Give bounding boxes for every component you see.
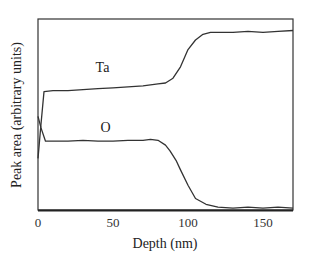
x-axis-title: Depth (nm) [133, 236, 198, 252]
o-series-line [38, 116, 293, 208]
depth-profile-chart: 050100150 Depth (nm) Peak area (arbitrar… [0, 0, 310, 258]
x-tick-label: 100 [178, 215, 198, 230]
x-tick-label: 150 [253, 215, 273, 230]
o-series-label: O [100, 120, 110, 135]
ta-series-label: Ta [96, 60, 111, 75]
x-tick-labels: 050100150 [35, 215, 273, 230]
x-tick-label: 50 [107, 215, 120, 230]
x-tick-label: 0 [35, 215, 42, 230]
ta-series-line [38, 31, 293, 159]
y-axis-title: Peak area (arbitrary units) [9, 42, 25, 188]
plot-frame [38, 19, 293, 210]
